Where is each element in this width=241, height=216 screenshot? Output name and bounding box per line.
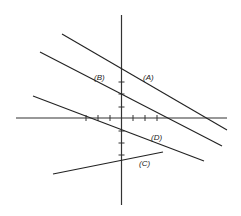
line-b	[40, 52, 222, 146]
coordinate-plane: (A) (B) (D) (C)	[0, 0, 241, 216]
line-d	[33, 96, 204, 161]
label-d: (D)	[151, 133, 162, 142]
label-a: (A)	[143, 73, 154, 82]
label-c: (C)	[139, 159, 150, 168]
label-b: (B)	[94, 73, 105, 82]
